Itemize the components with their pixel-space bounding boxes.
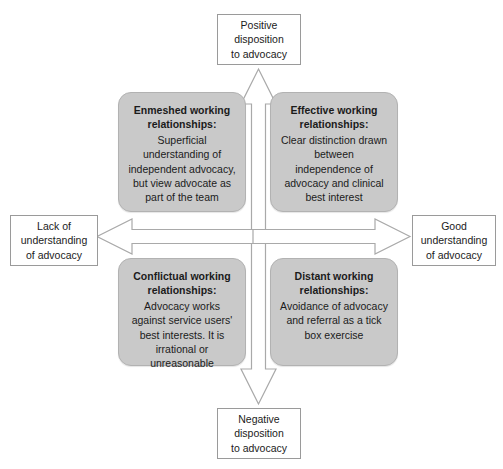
quadrant-body-conflictual: Advocacy works against service users' be…: [128, 299, 236, 371]
axis-label-left-line3: of advocacy: [26, 249, 82, 261]
axis-label-left-line2: understanding: [21, 234, 88, 246]
quadrant-effective-working-relationships: Effective working relationships: Clear d…: [270, 92, 398, 212]
axis-label-left-line1: Lack of: [37, 220, 71, 232]
axis-label-right-text: Good understanding of advocacy: [421, 219, 488, 263]
axis-label-positive-disposition: Positive disposition to advocacy: [217, 14, 301, 65]
axis-label-bottom-line2: disposition: [234, 427, 284, 439]
advocacy-relationships-quadrant-diagram: Positive disposition to advocacy Negativ…: [0, 0, 503, 469]
arrow-left-lack-of-understanding: [97, 219, 264, 254]
axis-label-left-text: Lack of understanding of advocacy: [21, 219, 88, 263]
quadrant-body-distant: Avoidance of advocacy and referral as a …: [280, 299, 388, 342]
axis-label-right-line1: Good: [441, 220, 467, 232]
axis-label-top-line2: disposition: [234, 33, 284, 45]
quadrant-title-enmeshed: Enmeshed working relationships:: [128, 103, 236, 132]
quadrant-body-effective: Clear distinction drawn between independ…: [280, 133, 388, 205]
axis-label-top-line3: to advocacy: [231, 48, 287, 60]
quadrant-distant-working-relationships: Distant working relationships: Avoidance…: [270, 258, 398, 366]
axis-label-top-text: Positive disposition to advocacy: [231, 18, 287, 62]
axis-label-lack-of-understanding: Lack of understanding of advocacy: [10, 215, 98, 266]
axis-label-top-line1: Positive: [241, 19, 278, 31]
arrow-right-good-understanding: [253, 219, 410, 254]
quadrant-conflictual-working-relationships: Conflictual working relationships: Advoc…: [118, 258, 246, 366]
quadrant-title-conflictual: Conflictual working relationships:: [128, 269, 236, 298]
quadrant-body-enmeshed: Superficial understanding of independent…: [128, 133, 236, 205]
axis-label-bottom-line3: to advocacy: [231, 442, 287, 454]
axis-label-good-understanding: Good understanding of advocacy: [412, 215, 496, 266]
axis-label-right-line2: understanding: [421, 234, 488, 246]
quadrant-enmeshed-working-relationships: Enmeshed working relationships: Superfic…: [118, 92, 246, 212]
axis-label-bottom-text: Negative disposition to advocacy: [231, 412, 287, 456]
quadrant-title-effective: Effective working relationships:: [280, 103, 388, 132]
axis-label-negative-disposition: Negative disposition to advocacy: [217, 408, 301, 459]
axis-label-bottom-line1: Negative: [238, 413, 279, 425]
quadrant-title-distant: Distant working relationships:: [280, 269, 388, 298]
axis-label-right-line3: of advocacy: [426, 249, 482, 261]
